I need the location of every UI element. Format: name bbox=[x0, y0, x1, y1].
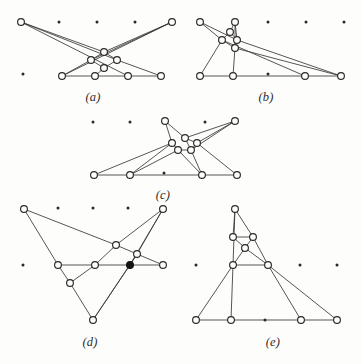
graph-node bbox=[160, 262, 167, 269]
grid-dot bbox=[57, 207, 60, 210]
grid-dot bbox=[58, 21, 61, 24]
graph-edge bbox=[268, 265, 337, 320]
graph-edge bbox=[237, 40, 341, 76]
graph-node bbox=[162, 118, 169, 125]
graph-edge bbox=[21, 22, 128, 76]
graph-node bbox=[175, 147, 182, 154]
graph-node bbox=[227, 29, 234, 36]
graph-edge bbox=[130, 150, 178, 175]
graph-node bbox=[265, 262, 272, 269]
graph-node bbox=[101, 49, 108, 56]
graph-node bbox=[92, 262, 99, 269]
graph-node-filled bbox=[127, 262, 134, 269]
grid-dot bbox=[127, 207, 130, 210]
caption-figure-a: (a) bbox=[85, 90, 100, 105]
grid-dots-layer bbox=[22, 21, 346, 322]
graph-node bbox=[199, 172, 206, 179]
grid-dot bbox=[92, 207, 95, 210]
graph-node bbox=[298, 317, 305, 324]
graph-node bbox=[228, 317, 235, 324]
graph-node bbox=[232, 45, 239, 52]
graph-node bbox=[101, 65, 108, 72]
graph-edge bbox=[24, 209, 58, 265]
graph-edge bbox=[24, 209, 116, 245]
graph-node bbox=[114, 57, 121, 64]
graph-node bbox=[169, 19, 176, 26]
graph-edge bbox=[62, 22, 172, 76]
graph-edge bbox=[253, 237, 268, 265]
graph-node bbox=[134, 251, 141, 258]
graph-node bbox=[67, 280, 74, 287]
graph-edge bbox=[233, 48, 235, 76]
graph-node bbox=[59, 73, 66, 80]
graph-node bbox=[232, 19, 239, 26]
graph-node bbox=[188, 147, 195, 154]
grid-dot bbox=[204, 121, 207, 124]
grid-dot bbox=[305, 21, 308, 24]
graph-node bbox=[194, 140, 201, 147]
graph-edge bbox=[196, 265, 233, 320]
graph-edge bbox=[231, 265, 233, 320]
graph-node bbox=[302, 73, 309, 80]
graph-edge bbox=[200, 40, 222, 76]
grid-dot bbox=[267, 21, 270, 24]
graph-node bbox=[90, 317, 97, 324]
graph-node bbox=[230, 234, 237, 241]
grid-dot bbox=[22, 264, 25, 267]
graph-node bbox=[193, 317, 200, 324]
caption-figure-c: (c) bbox=[156, 188, 170, 203]
grid-dot bbox=[267, 73, 270, 76]
grid-dot bbox=[129, 121, 132, 124]
graph-node bbox=[197, 73, 204, 80]
caption-figure-e: (e) bbox=[266, 335, 280, 350]
graph-edge bbox=[235, 48, 341, 76]
graph-node bbox=[158, 73, 165, 80]
graph-edge bbox=[235, 209, 253, 237]
caption-figure-b: (b) bbox=[258, 90, 273, 105]
caption-figure-d: (d) bbox=[82, 335, 97, 350]
graph-node bbox=[91, 172, 98, 179]
graph-edge bbox=[197, 143, 237, 175]
graph-edge bbox=[70, 265, 95, 283]
figure-plate-svg bbox=[0, 0, 362, 364]
graph-node bbox=[18, 19, 25, 26]
graph-node bbox=[197, 19, 204, 26]
graph-node bbox=[125, 73, 132, 80]
graph-edge bbox=[268, 265, 301, 320]
grid-dot bbox=[163, 172, 166, 175]
grid-dot bbox=[264, 319, 267, 322]
figure-plate: (a) (b) (c) (d) (e) bbox=[0, 0, 362, 364]
graph-node bbox=[230, 73, 237, 80]
graph-edge bbox=[104, 22, 172, 52]
grid-dot bbox=[96, 21, 99, 24]
edges-layer bbox=[21, 22, 341, 320]
graph-edge bbox=[62, 60, 91, 76]
graph-edge bbox=[116, 209, 163, 245]
graph-node bbox=[334, 317, 341, 324]
graph-node bbox=[55, 262, 62, 269]
graph-node bbox=[234, 172, 241, 179]
graph-node bbox=[232, 118, 239, 125]
graph-node bbox=[169, 140, 176, 147]
graph-edge bbox=[245, 248, 268, 265]
graph-edge bbox=[95, 245, 116, 265]
graph-node bbox=[21, 206, 28, 213]
graph-edge bbox=[191, 150, 202, 175]
graph-node bbox=[250, 234, 257, 241]
graph-node bbox=[88, 57, 95, 64]
graph-edge bbox=[70, 283, 93, 320]
graph-node bbox=[92, 73, 99, 80]
graph-edge bbox=[21, 22, 104, 52]
graph-node bbox=[242, 245, 249, 252]
graph-node bbox=[230, 262, 237, 269]
graph-node bbox=[113, 242, 120, 249]
graph-edge bbox=[130, 143, 172, 175]
graph-node bbox=[127, 172, 134, 179]
graph-node bbox=[232, 206, 239, 213]
grid-dot bbox=[336, 264, 339, 267]
grid-dot bbox=[92, 121, 95, 124]
graph-node bbox=[338, 73, 345, 80]
grid-dot bbox=[134, 21, 137, 24]
grid-dot bbox=[195, 264, 198, 267]
graph-node bbox=[182, 135, 189, 142]
